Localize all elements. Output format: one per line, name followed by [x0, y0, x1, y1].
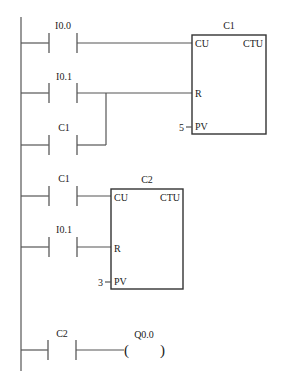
pin-pv: PV [195, 121, 209, 132]
contact-label-i0-0: I0.0 [55, 20, 71, 31]
pin-cu: CU [114, 192, 129, 203]
rung-5: C2 ( ) Q0.0 [21, 328, 165, 360]
contact-label-c1: C1 [58, 122, 70, 133]
pin-pv: PV [114, 276, 128, 287]
ladder-diagram: I0.0 I0.1 C1 C1 CU CTU R PV 5 C1 [0, 0, 283, 392]
preset-value: 5 [179, 122, 184, 133]
pin-cu: CU [195, 38, 210, 49]
contact-label-i0-1: I0.1 [56, 71, 72, 82]
coil-label-q0-0: Q0.0 [134, 329, 154, 340]
counter-name: C1 [223, 20, 235, 31]
coil-close-paren: ) [160, 342, 165, 359]
contact-label-c2: C2 [56, 328, 68, 339]
rung-3: C1 [21, 173, 111, 206]
counter-name: C2 [141, 174, 153, 185]
coil-open-paren: ( [124, 342, 129, 359]
pin-r: R [114, 243, 121, 254]
rung-4: I0.1 [21, 224, 111, 257]
pin-r: R [195, 88, 202, 99]
rung-2: I0.1 C1 [21, 71, 192, 155]
counter-c2: C2 CU CTU R PV 3 [98, 174, 183, 289]
counter-c1: C1 CU CTU R PV 5 [179, 20, 266, 134]
contact-label-i0-1: I0.1 [56, 224, 72, 235]
counter-block [111, 189, 183, 289]
rung-1: I0.0 [21, 20, 192, 53]
preset-value: 3 [98, 277, 103, 288]
counter-type: CTU [160, 192, 181, 203]
contact-label-c1: C1 [58, 173, 70, 184]
counter-type: CTU [243, 38, 264, 49]
counter-block [192, 35, 266, 134]
